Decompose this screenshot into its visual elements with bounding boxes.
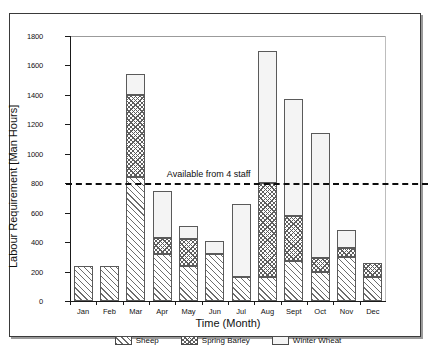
bar-segment-wheat xyxy=(153,191,172,239)
legend-item-winter-wheat[interactable]: Winter Wheat xyxy=(272,336,341,345)
legend-item-spring-barley[interactable]: Spring Barley xyxy=(181,336,250,345)
bar-segment-sheep xyxy=(153,254,172,301)
bar-segment-sheep xyxy=(284,261,303,301)
bar-segment-barley xyxy=(337,248,356,257)
legend-label: Winter Wheat xyxy=(293,336,341,345)
bar-segment-barley xyxy=(363,263,382,277)
plot-top-rule xyxy=(70,36,386,37)
bar-segment-sheep xyxy=(232,277,251,301)
x-axis-tick-label: Oct xyxy=(314,307,326,316)
x-axis-tick-mark xyxy=(202,301,203,305)
bar-nov[interactable] xyxy=(337,230,356,301)
x-axis-tick-label: Mar xyxy=(129,307,142,316)
bar-may[interactable] xyxy=(179,226,198,301)
y-axis-line xyxy=(70,36,71,302)
bar-segment-wheat xyxy=(179,226,198,239)
x-axis-tick-label: Feb xyxy=(103,307,116,316)
x-axis-tick-mark xyxy=(175,301,176,305)
x-axis-tick-label: Apr xyxy=(156,307,168,316)
bar-sept[interactable] xyxy=(284,99,303,301)
chart-legend: SheepSpring BarleyWinter Wheat xyxy=(70,336,386,345)
x-axis-tick-mark xyxy=(228,301,229,305)
x-axis-tick-mark xyxy=(70,301,71,305)
bar-segment-sheep xyxy=(74,266,93,301)
bar-aug[interactable] xyxy=(258,51,277,301)
y-axis-tick-mark xyxy=(65,36,70,37)
threshold-line xyxy=(66,183,428,185)
threshold-label: Available from 4 staff xyxy=(165,169,253,179)
bar-segment-sheep xyxy=(311,272,330,301)
bar-segment-wheat xyxy=(232,204,251,278)
plot-right-rule xyxy=(385,36,386,302)
y-axis-tick-mark xyxy=(65,124,70,125)
x-axis-tick-mark xyxy=(333,301,334,305)
y-axis-tick-label: 1800 xyxy=(9,32,43,41)
x-axis-title: Time (Month) xyxy=(70,317,386,329)
bar-segment-wheat xyxy=(284,99,303,216)
y-axis-tick-label: 200 xyxy=(9,267,43,276)
y-axis-tick-mark xyxy=(65,272,70,273)
x-axis-tick-mark xyxy=(254,301,255,305)
bar-segment-sheep xyxy=(205,254,224,301)
y-axis-tick-mark xyxy=(65,154,70,155)
bar-dec[interactable] xyxy=(363,263,382,301)
y-axis-tick-label: 0 xyxy=(9,297,43,306)
bar-segment-wheat xyxy=(126,74,145,95)
bar-segment-barley xyxy=(126,95,145,177)
bar-segment-barley xyxy=(179,239,198,266)
x-axis-tick-label: Sept xyxy=(286,307,301,316)
x-axis-tick-mark xyxy=(307,301,308,305)
bar-segment-sheep xyxy=(126,177,145,301)
bar-segment-wheat xyxy=(311,133,330,258)
y-axis-tick-mark xyxy=(65,95,70,96)
legend-label: Spring Barley xyxy=(202,336,250,345)
y-axis-tick-mark xyxy=(65,242,70,243)
y-axis-tick-label: 1400 xyxy=(9,90,43,99)
chart-frame: 020040060080010001200140016001800 JanFeb… xyxy=(9,13,421,337)
bar-segment-barley xyxy=(258,183,277,277)
bar-segment-sheep xyxy=(179,266,198,301)
bar-jul[interactable] xyxy=(232,204,251,301)
bar-apr[interactable] xyxy=(153,191,172,301)
legend-item-sheep[interactable]: Sheep xyxy=(115,336,159,345)
x-axis-tick-mark xyxy=(360,301,361,305)
y-axis-tick-mark xyxy=(65,213,70,214)
bar-oct[interactable] xyxy=(311,133,330,301)
x-axis-tick-label: Jul xyxy=(236,307,246,316)
y-axis-tick-label: 1600 xyxy=(9,61,43,70)
x-axis-tick-label: Nov xyxy=(340,307,353,316)
bar-segment-sheep xyxy=(337,257,356,301)
legend-swatch-sheep xyxy=(115,336,132,345)
y-axis-tick-mark xyxy=(65,65,70,66)
bar-segment-barley xyxy=(311,258,330,272)
legend-label: Sheep xyxy=(136,336,159,345)
bar-jun[interactable] xyxy=(205,241,224,301)
bar-segment-wheat xyxy=(205,241,224,254)
x-axis-tick-mark xyxy=(123,301,124,305)
bar-segment-barley xyxy=(153,238,172,253)
bar-segment-barley xyxy=(284,216,303,261)
bar-segment-sheep xyxy=(100,266,119,301)
bar-segment-wheat xyxy=(258,51,277,184)
x-axis-tick-label: May xyxy=(181,307,195,316)
x-axis-tick-label: Dec xyxy=(366,307,379,316)
x-axis-tick-mark xyxy=(149,301,150,305)
bar-feb[interactable] xyxy=(100,266,119,301)
bar-segment-wheat xyxy=(337,230,356,248)
legend-swatch-barley xyxy=(181,336,198,345)
bar-segment-sheep xyxy=(363,277,382,301)
legend-swatch-wheat xyxy=(272,336,289,345)
bar-mar[interactable] xyxy=(126,74,145,301)
x-axis-tick-mark xyxy=(281,301,282,305)
x-axis-tick-label: Jun xyxy=(209,307,221,316)
x-axis-tick-mark xyxy=(96,301,97,305)
y-axis-title: Labour Requirement [Man Hours] xyxy=(7,105,19,268)
bar-jan[interactable] xyxy=(74,266,93,301)
x-axis-tick-label: Aug xyxy=(261,307,274,316)
bar-segment-sheep xyxy=(258,277,277,301)
x-axis-tick-label: Jan xyxy=(77,307,89,316)
